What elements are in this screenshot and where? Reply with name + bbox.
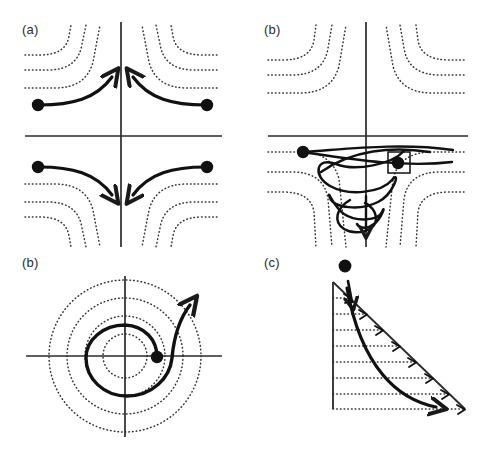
panel-a	[25, 22, 222, 247]
panel-c	[333, 260, 465, 414]
panel-c-marker-dot	[339, 260, 352, 273]
panel-a-marker-dot	[32, 161, 44, 173]
panel-label-b-top: (b)	[264, 22, 281, 37]
panel-b-top-marker-dot-boxed	[392, 157, 404, 169]
panel-a-trajectory-upper-right	[133, 77, 206, 105]
panel-b-bottom-spiral-trajectory	[86, 305, 190, 396]
figure-canvas	[0, 0, 485, 451]
panel-a-marker-dot	[201, 99, 213, 111]
panel-a-marker-dot	[32, 99, 44, 111]
panel-b-bottom	[26, 276, 222, 437]
panel-b-top-marker-dot	[297, 146, 309, 158]
panel-b-bottom-marker-dot	[151, 351, 163, 363]
panel-a-trajectory-lower-left	[39, 167, 112, 195]
panel-label-b-bottom: (b)	[22, 255, 39, 270]
panel-label-c: (c)	[264, 255, 280, 270]
panel-c-curved-trajectory	[347, 288, 436, 407]
panel-label-a: (a)	[22, 22, 39, 37]
panel-a-trajectory-lower-right	[133, 167, 206, 195]
panel-b-top	[268, 22, 468, 247]
figure-root: (a) (b) (b) (c)	[0, 0, 485, 451]
panel-a-trajectory-upper-left	[39, 77, 112, 105]
panel-a-marker-dot	[201, 161, 213, 173]
